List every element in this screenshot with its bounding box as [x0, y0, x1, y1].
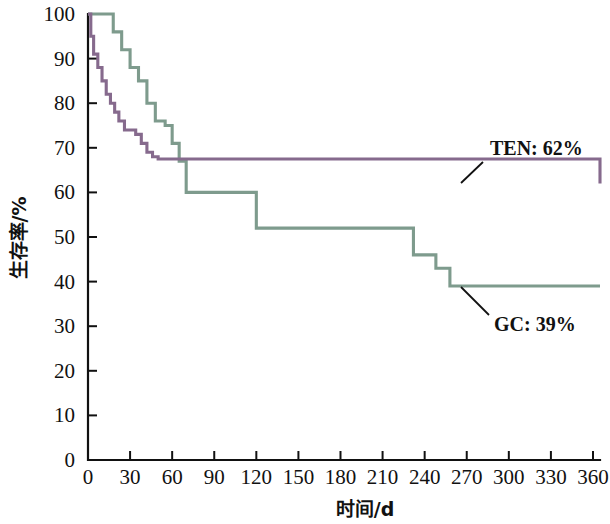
kaplan-meier-chart: 0306090120150180210240270300330360 01020… — [0, 0, 610, 524]
x-tick-label: 270 — [451, 465, 483, 489]
y-axis-ticks — [88, 14, 97, 460]
y-tick-label: 50 — [54, 225, 75, 249]
x-tick-label: 330 — [535, 465, 567, 489]
x-tick-label: 30 — [120, 465, 141, 489]
y-axis-title: 生存率/% — [8, 197, 30, 280]
y-axis-tick-labels: 0102030405060708090100 — [44, 2, 76, 472]
x-tick-label: 60 — [162, 465, 183, 489]
x-tick-label: 120 — [241, 465, 273, 489]
x-axis-tick-labels: 0306090120150180210240270300330360 — [83, 465, 609, 489]
x-axis-title: 时间/d — [336, 498, 395, 520]
chart-annotations: TEN: 62% GC: 39% — [461, 137, 583, 335]
ten-annotation-label: TEN: 62% — [490, 137, 583, 159]
x-tick-label: 150 — [283, 465, 315, 489]
y-tick-label: 30 — [54, 314, 75, 338]
chart-axes — [88, 14, 600, 460]
ten-leader-line — [461, 162, 483, 183]
x-tick-label: 210 — [367, 465, 399, 489]
x-tick-label: 180 — [325, 465, 357, 489]
x-tick-label: 360 — [577, 465, 609, 489]
y-tick-label: 40 — [54, 270, 75, 294]
gc-leader-line — [461, 287, 489, 315]
y-tick-label: 80 — [54, 91, 75, 115]
x-axis-ticks — [88, 451, 593, 460]
y-tick-label: 0 — [65, 448, 76, 472]
y-tick-label: 100 — [44, 2, 76, 26]
x-tick-label: 240 — [409, 465, 441, 489]
x-tick-label: 300 — [493, 465, 525, 489]
y-tick-label: 90 — [54, 47, 75, 71]
y-tick-label: 20 — [54, 359, 75, 383]
axis-lines — [88, 14, 600, 460]
x-tick-label: 90 — [204, 465, 225, 489]
y-tick-label: 70 — [54, 136, 75, 160]
y-tick-label: 10 — [54, 403, 75, 427]
survival-chart-figure: 0306090120150180210240270300330360 01020… — [0, 0, 610, 524]
y-tick-label: 60 — [54, 180, 75, 204]
x-tick-label: 0 — [83, 465, 94, 489]
gc-annotation-label: GC: 39% — [494, 313, 576, 335]
